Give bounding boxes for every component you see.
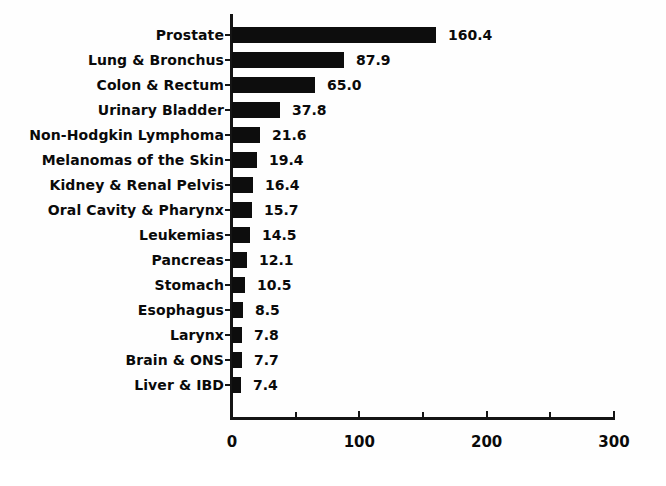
bar-row: Kidney & Renal Pelvis16.4 (0, 176, 666, 201)
bar-row: Colon & Rectum65.0 (0, 76, 666, 101)
bar-value-label: 7.4 (253, 376, 278, 394)
category-tick (225, 59, 231, 61)
category-tick (225, 209, 231, 211)
x-axis-tick (613, 411, 615, 420)
bar (232, 77, 315, 93)
category-tick (225, 84, 231, 86)
bar-row: Esophagus8.5 (0, 301, 666, 326)
category-label: Stomach (155, 276, 224, 294)
bar-value-label: 15.7 (264, 201, 299, 219)
bar-value-label: 8.5 (255, 301, 280, 319)
scan-noise (0, 460, 666, 486)
bar-row: Larynx7.8 (0, 326, 666, 351)
category-label: Oral Cavity & Pharynx (48, 201, 224, 219)
category-tick (225, 184, 231, 186)
bar-row: Non-Hodgkin Lymphoma21.6 (0, 126, 666, 151)
x-axis-tick (358, 411, 360, 420)
bar-value-label: 7.8 (254, 326, 279, 344)
bar-value-label: 87.9 (356, 51, 391, 69)
bar-value-label: 160.4 (448, 26, 492, 44)
bar (232, 127, 260, 143)
category-label: Lung & Bronchus (88, 51, 224, 69)
bar-value-label: 65.0 (327, 76, 362, 94)
bar-row: Stomach10.5 (0, 276, 666, 301)
bar-value-label: 19.4 (269, 151, 304, 169)
bar-value-label: 7.7 (254, 351, 279, 369)
category-label: Non-Hodgkin Lymphoma (29, 126, 224, 144)
category-label: Colon & Rectum (97, 76, 224, 94)
bar-row: Pancreas12.1 (0, 251, 666, 276)
bar-value-label: 37.8 (292, 101, 327, 119)
category-tick (225, 309, 231, 311)
bar (232, 377, 241, 393)
category-tick (225, 159, 231, 161)
x-axis-tick-label: 0 (227, 433, 237, 451)
category-tick (225, 384, 231, 386)
bar-row: Prostate160.4 (0, 26, 666, 51)
x-axis-tick (549, 412, 551, 420)
category-label: Liver & IBD (134, 376, 224, 394)
bar (232, 102, 280, 118)
x-axis-tick-label: 300 (598, 433, 629, 451)
bar-value-label: 12.1 (259, 251, 294, 269)
category-label: Leukemias (139, 226, 224, 244)
bar-rows: Prostate160.4Lung & Bronchus87.9Colon & … (0, 26, 666, 401)
x-axis-tick (486, 411, 488, 420)
category-tick (225, 234, 231, 236)
bar (232, 27, 436, 43)
category-tick (225, 34, 231, 36)
bar (232, 152, 257, 168)
category-label: Brain & ONS (125, 351, 224, 369)
category-label: Kidney & Renal Pelvis (50, 176, 225, 194)
category-tick (225, 259, 231, 261)
bar (232, 327, 242, 343)
bar-row: Leukemias14.5 (0, 226, 666, 251)
bar (232, 227, 250, 243)
plot-area: Prostate160.4Lung & Bronchus87.9Colon & … (0, 0, 666, 486)
category-tick (225, 359, 231, 361)
bar-value-label: 14.5 (262, 226, 297, 244)
x-axis-tick (295, 412, 297, 420)
category-label: Esophagus (138, 301, 224, 319)
x-axis-tick-label: 200 (471, 433, 502, 451)
bar-row: Urinary Bladder37.8 (0, 101, 666, 126)
bar (232, 352, 242, 368)
bar-row: Brain & ONS7.7 (0, 351, 666, 376)
bar (232, 177, 253, 193)
bar-chart: Prostate160.4Lung & Bronchus87.9Colon & … (0, 0, 666, 486)
bar (232, 252, 247, 268)
category-label: Melanomas of the Skin (42, 151, 224, 169)
bar-row: Liver & IBD7.4 (0, 376, 666, 401)
category-label: Larynx (170, 326, 224, 344)
category-label: Prostate (156, 26, 224, 44)
bar-value-label: 16.4 (265, 176, 300, 194)
bar-row: Melanomas of the Skin19.4 (0, 151, 666, 176)
category-tick (225, 109, 231, 111)
category-tick (225, 284, 231, 286)
bar (232, 277, 245, 293)
category-label: Pancreas (151, 251, 224, 269)
x-axis-tick-label: 100 (344, 433, 375, 451)
bar-value-label: 10.5 (257, 276, 292, 294)
bar (232, 302, 243, 318)
category-tick (225, 134, 231, 136)
bar (232, 202, 252, 218)
x-axis-tick (422, 412, 424, 420)
x-axis-tick (231, 411, 233, 420)
bar-value-label: 21.6 (272, 126, 307, 144)
category-tick (225, 334, 231, 336)
bar (232, 52, 344, 68)
category-label: Urinary Bladder (98, 101, 224, 119)
bar-row: Oral Cavity & Pharynx15.7 (0, 201, 666, 226)
bar-row: Lung & Bronchus87.9 (0, 51, 666, 76)
